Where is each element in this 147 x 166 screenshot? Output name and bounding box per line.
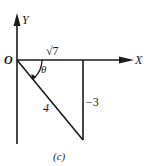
opposite-side-label: −3 xyxy=(86,95,99,109)
origin-label: O xyxy=(4,53,13,67)
x-axis-label: X xyxy=(134,53,143,67)
triangle-diagram: Y X O θ √7 4 −3 (c) xyxy=(0,0,147,166)
angle-label: θ xyxy=(41,63,47,75)
y-axis-arrow-icon xyxy=(14,13,21,26)
adjacent-side-label: √7 xyxy=(46,44,59,58)
y-axis-label: Y xyxy=(22,13,30,27)
figure-caption: (c) xyxy=(53,150,66,163)
hypotenuse-label: 4 xyxy=(43,101,49,115)
x-axis-arrow-icon xyxy=(119,57,134,64)
hypotenuse xyxy=(17,60,83,140)
angle-arc-arrow-icon xyxy=(32,74,37,80)
